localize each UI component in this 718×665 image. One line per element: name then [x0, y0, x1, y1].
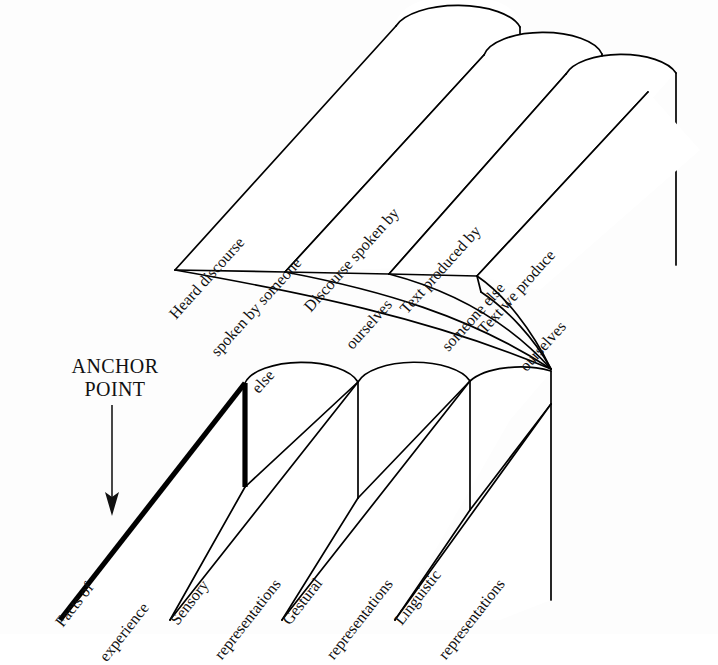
- label-text-we-produce-line2: ourselves: [516, 284, 601, 375]
- anchor-point-line2: POINT: [85, 378, 146, 400]
- label-sensory-representations-line1: Sensory: [167, 541, 241, 629]
- label-facts-of-experience-line2: experience: [96, 599, 153, 665]
- label-text-we-produce-line1: Text we produce: [474, 246, 559, 337]
- label-linguistic-representations-line1: Linguistic: [391, 541, 465, 629]
- label-facts-of-experience-line1: Facts of: [52, 565, 109, 631]
- anchor-point-arrow: [105, 405, 119, 516]
- anchor-point-line1: ANCHOR: [72, 355, 159, 377]
- label-linguistic-representations-line2: representations: [435, 575, 509, 663]
- label-gestural-representations-line1: Gestural: [279, 541, 353, 629]
- anchor-point-label: ANCHORPOINT: [50, 355, 180, 400]
